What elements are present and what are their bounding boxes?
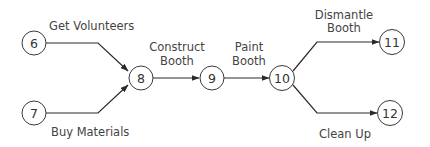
node-10: 10 <box>270 66 295 91</box>
node-8: 8 <box>129 66 153 90</box>
node-7: 7 <box>22 101 46 125</box>
edge-label-construct-booth-line1: Construct <box>149 40 205 54</box>
node-6-label: 6 <box>30 36 38 51</box>
node-11: 11 <box>380 30 405 55</box>
edge-6-to-8 <box>46 43 128 71</box>
edge-label-paint-booth-line2: Booth <box>232 54 266 68</box>
node-11-label: 11 <box>384 35 400 50</box>
node-9-label: 9 <box>208 71 216 86</box>
edge-label-dismantle-booth-line2: Booth <box>327 21 361 35</box>
edge-label-get-volunteers: Get Volunteers <box>49 19 134 33</box>
edge-label-dismantle-booth-line1: Dismantle <box>315 8 373 22</box>
node-10-label: 10 <box>274 71 290 86</box>
edge-label-buy-materials: Buy Materials <box>51 125 129 139</box>
edge-7-to-8 <box>46 85 128 113</box>
edge-10-to-12 <box>293 85 377 113</box>
edge-label-construct-booth-line2: Booth <box>160 54 194 68</box>
node-12-label: 12 <box>382 106 398 121</box>
nodes: 6 7 8 9 10 11 12 <box>22 30 405 126</box>
node-6: 6 <box>22 31 46 55</box>
activity-network-diagram: Get Volunteers Buy Materials Construct B… <box>0 0 430 147</box>
node-12: 12 <box>378 101 403 126</box>
edge-label-paint-booth-line1: Paint <box>235 40 264 54</box>
node-7-label: 7 <box>30 106 38 121</box>
node-9: 9 <box>200 66 224 90</box>
node-8-label: 8 <box>137 71 145 86</box>
edge-label-clean-up: Clean Up <box>319 127 371 141</box>
edge-10-to-11 <box>293 42 379 71</box>
